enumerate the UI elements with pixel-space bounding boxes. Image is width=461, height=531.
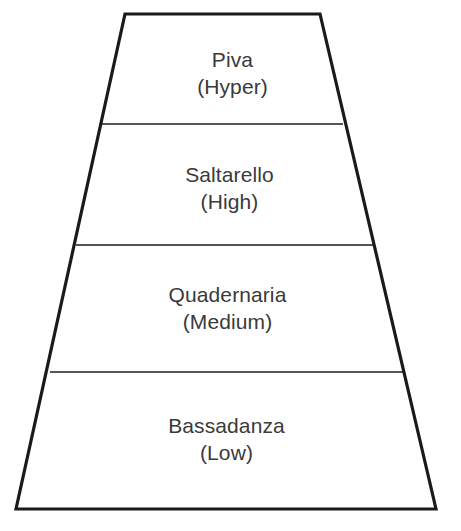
tier-qualifier-bassadanza: (Low) [0,439,457,466]
tier-name-piva: Piva [2,46,461,73]
tier-name-quadernaria: Quadernaria [0,281,458,308]
tier-label-bassadanza: Bassadanza (Low) [0,412,461,467]
tier-name-saltarello: Saltarello [0,161,460,188]
tier-label-quadernaria: Quadernaria (Medium) [0,281,461,336]
tier-name-bassadanza: Bassadanza [0,412,457,439]
tier-qualifier-saltarello: (High) [0,188,460,215]
tier-qualifier-quadernaria: (Medium) [0,308,458,335]
tier-label-piva: Piva (Hyper) [0,46,461,101]
tempo-pyramid-diagram: Piva (Hyper) Saltarello (High) Quadernar… [0,0,461,531]
tier-label-saltarello: Saltarello (High) [0,161,461,216]
tier-qualifier-piva: (Hyper) [2,73,461,100]
